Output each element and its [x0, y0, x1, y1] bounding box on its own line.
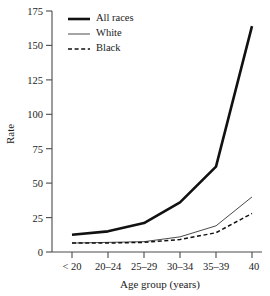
x-axis-title: Age group (years): [120, 278, 200, 291]
x-tick-label: 40: [249, 261, 260, 272]
x-tick-label: 35–39: [203, 261, 229, 272]
line-chart: 175 150 125 100 75 50 25 0 < 20 20–24 25…: [0, 0, 270, 296]
y-tick-label: 100: [27, 109, 43, 120]
y-tick-label: 150: [27, 40, 43, 51]
y-tick-label: 75: [33, 144, 44, 155]
legend-label-black: Black: [96, 42, 121, 53]
legend-label-white: White: [96, 27, 122, 38]
x-tick-label: 25–29: [131, 261, 157, 272]
x-tick-label: 20–24: [95, 261, 122, 272]
x-tick-label: 30–34: [167, 261, 194, 272]
y-tick-label: 50: [33, 178, 44, 189]
y-axis-title: Rate: [4, 124, 16, 144]
y-tick-label: 175: [27, 6, 43, 17]
x-tick-label: < 20: [62, 261, 81, 272]
legend-label-all-races: All races: [96, 12, 134, 23]
chart-figure: 175 150 125 100 75 50 25 0 < 20 20–24 25…: [0, 0, 270, 296]
y-tick-label: 0: [38, 247, 43, 258]
y-tick-label: 125: [27, 75, 43, 86]
y-tick-label: 25: [33, 213, 44, 224]
